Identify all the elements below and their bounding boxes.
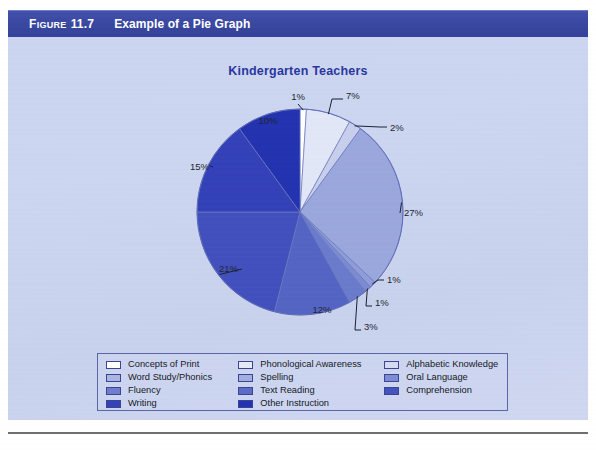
pie-value-label: 1% <box>387 274 401 285</box>
pie-value-label: 1% <box>291 91 305 102</box>
legend-swatch <box>106 361 121 369</box>
pie-value-label: 3% <box>364 321 378 332</box>
legend-swatch <box>238 400 253 408</box>
legend-item: Concepts of Print <box>106 359 238 370</box>
legend-swatch <box>106 400 121 408</box>
legend-swatch <box>238 374 253 382</box>
pie-value-label: 15% <box>190 161 210 172</box>
legend-swatch <box>106 387 121 395</box>
legend-swatch <box>384 361 399 369</box>
figure-title: Example of a Pie Graph <box>114 17 250 31</box>
pie-chart-svg: 1%7%2%27%1%1%3%12%21%15%10% <box>140 80 470 345</box>
legend-item: Oral Language <box>384 372 501 383</box>
legend-swatch <box>238 387 253 395</box>
legend-swatch <box>106 374 121 382</box>
legend-label: Writing <box>128 398 157 409</box>
legend-label: Fluency <box>128 385 161 396</box>
pie-value-label: 10% <box>258 115 278 126</box>
legend-label: Comprehension <box>406 385 472 396</box>
legend-label: Spelling <box>260 372 293 383</box>
pie-leader-line <box>355 296 361 330</box>
legend-item: Writing <box>106 398 238 409</box>
pie-leader-line <box>328 99 343 114</box>
page-rule <box>8 432 588 434</box>
legend-label: Oral Language <box>406 372 468 383</box>
pie-leader-line <box>366 289 372 307</box>
pie-value-label: 27% <box>404 207 424 218</box>
figure-caption-bar: FIGURE 11.7 Example of a Pie Graph <box>8 10 588 37</box>
pie-leader-line <box>355 126 387 127</box>
legend-item: Word Study/Phonics <box>106 372 238 383</box>
legend-item: Other Instruction <box>238 398 384 409</box>
pie-value-label: 1% <box>375 297 389 308</box>
legend-item: Text Reading <box>238 385 384 396</box>
legend-label: Text Reading <box>260 385 314 396</box>
pie-value-label: 7% <box>346 90 360 101</box>
legend-swatch <box>384 387 399 395</box>
legend-item: Alphabetic Knowledge <box>384 359 501 370</box>
figure-label: FIGURE <box>29 17 67 31</box>
legend-row: Fluency Text Reading Comprehension <box>106 384 501 397</box>
legend-label: Concepts of Print <box>128 359 199 370</box>
legend-item: Comprehension <box>384 385 501 396</box>
legend-row: Concepts of Print Phonological Awareness… <box>106 358 501 371</box>
legend-item: Spelling <box>238 372 384 383</box>
legend-swatch <box>238 361 253 369</box>
pie-value-label: 2% <box>390 122 404 133</box>
legend-label: Word Study/Phonics <box>128 372 212 383</box>
figure-label-text: IGURE <box>37 20 67 30</box>
legend-item: Phonological Awareness <box>238 359 384 370</box>
legend-label: Phonological Awareness <box>260 359 361 370</box>
chart-title: Kindergarten Teachers <box>0 64 596 78</box>
legend-row: Writing Other Instruction <box>106 397 501 410</box>
legend-row: Word Study/Phonics Spelling Oral Languag… <box>106 371 501 384</box>
pie-value-label: 12% <box>312 304 332 315</box>
figure-number: 11.7 <box>71 17 95 31</box>
figure-page: FIGURE 11.7 Example of a Pie Graph Kinde… <box>0 0 596 450</box>
legend-label: Alphabetic Knowledge <box>406 359 498 370</box>
legend-label: Other Instruction <box>260 398 329 409</box>
legend-item: Fluency <box>106 385 238 396</box>
pie-chart: 1%7%2%27%1%1%3%12%21%15%10% <box>140 80 470 345</box>
pie-value-label: 21% <box>219 263 239 274</box>
chart-legend: Concepts of Print Phonological Awareness… <box>97 353 508 411</box>
legend-swatch <box>384 374 399 382</box>
